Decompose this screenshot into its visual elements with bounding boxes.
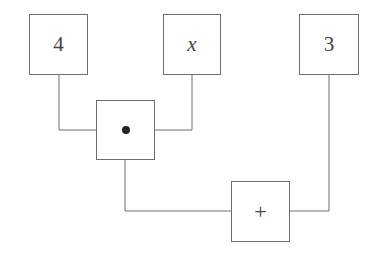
edge-4-to-multiply — [59, 75, 96, 130]
node-label: 3 — [324, 32, 335, 57]
edge-multiply-to-add — [125, 160, 231, 211]
node-multiply — [96, 100, 155, 160]
node-label: + — [254, 199, 266, 225]
edge-x-to-multiply — [155, 75, 192, 130]
multiply-dot-icon — [122, 126, 130, 134]
node-constant-3: 3 — [299, 14, 359, 75]
node-add: + — [231, 181, 290, 242]
node-constant-4: 4 — [29, 14, 88, 75]
node-label: x — [187, 32, 196, 57]
node-variable-x: x — [163, 14, 221, 75]
node-label: 4 — [53, 32, 64, 57]
edge-3-to-add — [290, 75, 329, 211]
